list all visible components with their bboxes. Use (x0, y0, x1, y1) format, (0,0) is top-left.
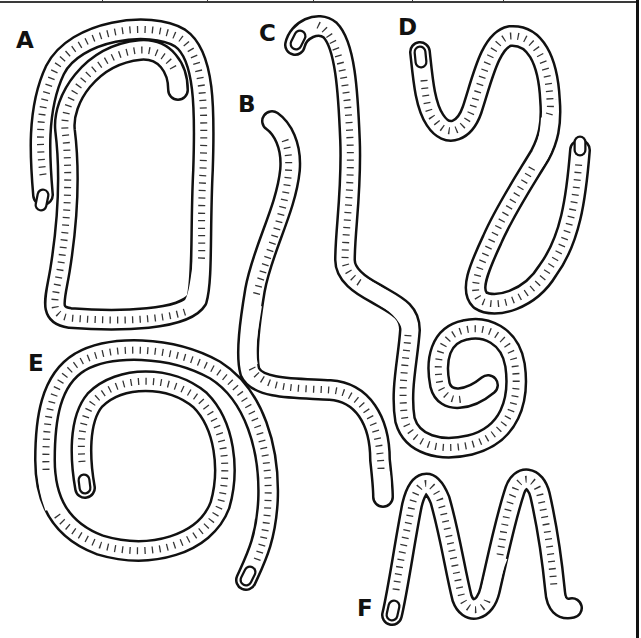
worm-e (45, 350, 268, 580)
panel-label-b: B (238, 93, 256, 116)
worm-f (392, 479, 572, 615)
panel-label-e: E (28, 352, 44, 375)
worm-illustrations: .outer { fill: none; stroke: #111; strok… (0, 0, 641, 638)
panel-label-f: F (357, 597, 373, 620)
figure-frame: .outer { fill: none; stroke: #111; strok… (0, 0, 641, 638)
worm-d (420, 36, 580, 304)
panel-label-c: C (259, 22, 276, 45)
panel-label-d: D (398, 16, 417, 39)
worm-a (40, 29, 203, 320)
panel-label-a: A (16, 29, 34, 52)
